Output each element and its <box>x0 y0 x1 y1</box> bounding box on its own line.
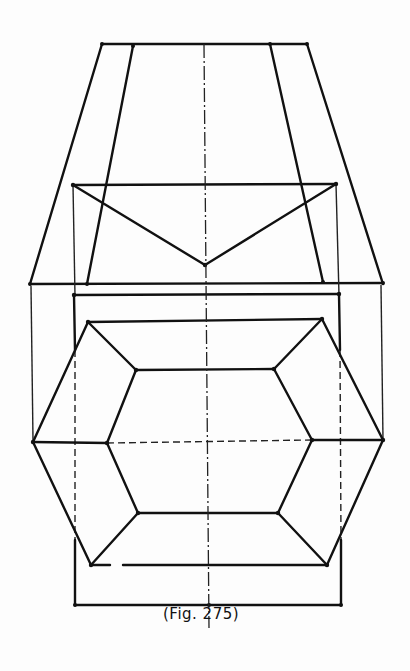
elevation-view <box>28 42 385 296</box>
figure-caption: (Fig. 275) <box>163 605 239 623</box>
center-line <box>204 44 209 628</box>
projection-drawing <box>0 0 410 671</box>
drawing-canvas: (Fig. 275) <box>0 0 410 671</box>
